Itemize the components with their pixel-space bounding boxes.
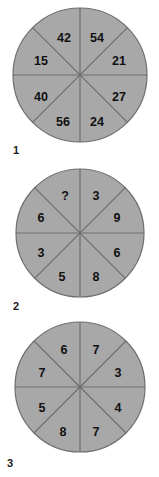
wheel-1-sector-bottom-right: 24 — [90, 115, 104, 129]
wheel-1-spokes — [13, 8, 147, 142]
wheel-2-spokes — [16, 169, 144, 297]
wheel-2: 3 9 6 8 5 3 6 ? 2 — [0, 160, 159, 318]
wheel-1: 54 21 27 24 56 40 15 42 1 — [0, 0, 159, 158]
wheel-3-sector-top-left: 6 — [61, 343, 68, 357]
wheel-1-sector-left-lower: 40 — [34, 90, 48, 104]
wheel-2-sector-right-upper: 9 — [114, 211, 121, 225]
wheel-1-sector-right-upper: 21 — [112, 54, 126, 68]
wheel-3-sector-bottom-left: 8 — [60, 425, 67, 439]
wheel-1-sector-top-right: 54 — [90, 31, 104, 45]
wheel-3-sector-left-lower: 5 — [39, 401, 46, 415]
wheel-2-sector-left-upper: 6 — [38, 211, 45, 225]
wheel-3-sector-top-right: 7 — [93, 343, 100, 357]
wheel-3-sector-right-upper: 3 — [115, 366, 122, 380]
wheel-1-label: 1 — [13, 145, 19, 156]
wheel-3-diagram: 7 3 4 7 8 5 7 6 — [0, 318, 159, 477]
wheel-3-sector-bottom-right: 7 — [93, 425, 100, 439]
wheel-3-spokes — [15, 322, 145, 452]
wheel-1-sector-left-upper: 15 — [34, 54, 48, 68]
wheel-2-sector-top-right: 3 — [93, 189, 100, 203]
wheel-1-diagram: 54 21 27 24 56 40 15 42 — [0, 0, 159, 158]
puzzle-stage: 54 21 27 24 56 40 15 42 1 3 9 6 8 5 3 — [0, 0, 159, 477]
wheel-3: 7 3 4 7 8 5 7 6 3 — [0, 318, 159, 477]
wheel-3-sector-left-upper: 7 — [39, 366, 46, 380]
wheel-2-diagram: 3 9 6 8 5 3 6 ? — [0, 160, 159, 318]
wheel-1-sector-bottom-left: 56 — [56, 115, 70, 129]
wheel-2-sector-left-lower: 3 — [38, 246, 45, 260]
wheel-3-label: 3 — [7, 458, 13, 469]
wheel-1-sector-right-lower: 27 — [112, 90, 126, 104]
wheel-2-sector-bottom-left: 5 — [59, 270, 66, 284]
wheel-2-sector-top-left: ? — [61, 189, 69, 203]
wheel-3-sector-right-lower: 4 — [115, 401, 122, 415]
wheel-1-sector-top-left: 42 — [57, 31, 71, 45]
wheel-2-sector-bottom-right: 8 — [93, 270, 100, 284]
wheel-2-label: 2 — [13, 301, 19, 312]
wheel-2-sector-right-lower: 6 — [114, 246, 121, 260]
